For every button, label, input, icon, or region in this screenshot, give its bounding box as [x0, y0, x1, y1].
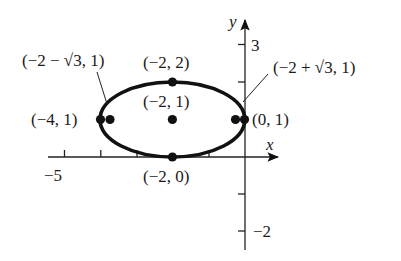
label-center: (−2, 1) [143, 92, 189, 111]
point-co-vertex-top [168, 77, 177, 86]
label-vertex-right: (0, 1) [252, 110, 289, 129]
leader-line-left-focus [97, 72, 107, 104]
ellipse-diagram: x −5 y 3 −2 (−4, 1) (−2 − √3, 1) (−2, 2)… [0, 0, 401, 261]
label-co-vertex-bottom: (−2, 0) [143, 167, 189, 186]
x-tick-label--5: −5 [44, 166, 62, 185]
label-focus-right: (−2 + √3, 1) [273, 58, 355, 77]
leader-line-right-focus [243, 74, 268, 102]
point-vertex-left [96, 115, 105, 124]
y-axis: y 3 −2 [227, 12, 271, 250]
label-co-vertex-top: (−2, 2) [143, 53, 189, 72]
point-center [168, 115, 177, 124]
point-focus-right [231, 115, 240, 124]
point-focus-left [105, 115, 114, 124]
y-tick-label-3: 3 [251, 36, 260, 55]
label-vertex-left: (−4, 1) [31, 110, 77, 129]
y-axis-label: y [227, 12, 237, 31]
label-focus-left: (−2 − √3, 1) [22, 51, 104, 70]
y-tick-label--2: −2 [253, 222, 271, 241]
x-axis-label: x [265, 135, 274, 154]
point-vertex-right [240, 115, 249, 124]
point-co-vertex-bottom [168, 152, 177, 161]
